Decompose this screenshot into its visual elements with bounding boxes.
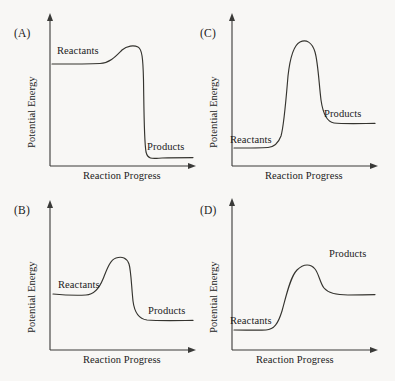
panel-d-reactants-label: Reactants [230,315,272,326]
panel-a-letter: (A) [14,27,31,39]
panel-d-y-axis-label: Potential Energy [208,261,219,333]
panel-c-letter: (C) [200,27,216,39]
panel-b: (B) Potential Energy Reaction Progress R… [0,191,197,381]
panel-d-plot [198,191,395,381]
panel-d-x-axis-label: Reaction Progress [256,354,334,365]
y-axis-arrow-icon [47,200,53,208]
x-axis-arrow-icon [370,163,378,169]
panel-c-plot [198,0,395,190]
panel-b-reactants-label: Reactants [58,279,100,290]
x-axis-arrow-icon [188,163,196,169]
panel-b-x-axis-label: Reaction Progress [83,354,161,365]
panel-d: (D) Potential Energy Reaction Progress R… [198,191,395,381]
panel-d-letter: (D) [200,204,217,216]
panel-b-y-axis-label: Potential Energy [26,261,37,333]
x-axis-arrow-icon [188,347,196,353]
panel-c-reactants-label: Reactants [230,134,272,145]
x-axis-arrow-icon [370,347,378,353]
y-axis-arrow-icon [229,13,235,21]
y-axis-arrow-icon [229,198,235,206]
energy-diagram-figure: (A) Potential Energy Reaction Progress R… [0,0,395,381]
panel-c: (C) Potential Energy Reaction Progress R… [198,0,395,190]
panel-c-x-axis-label: Reaction Progress [265,170,343,181]
panel-b-letter: (B) [14,204,30,216]
panel-a-x-axis-label: Reaction Progress [83,170,161,181]
panel-c-products-label: Products [324,108,362,119]
panel-a-y-axis-label: Potential Energy [26,76,37,148]
panel-c-energy-curve [234,41,375,148]
panel-a-products-label: Products [147,141,185,152]
panel-a-reactants-label: Reactants [57,45,99,56]
panel-a: (A) Potential Energy Reaction Progress R… [0,0,197,190]
y-axis-arrow-icon [47,13,53,21]
panel-b-products-label: Products [148,305,186,316]
panel-d-products-label: Products [329,248,367,259]
panel-c-y-axis-label: Potential Energy [208,76,219,148]
